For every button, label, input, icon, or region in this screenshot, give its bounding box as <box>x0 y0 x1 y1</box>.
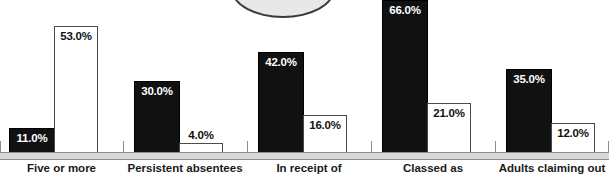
category-label-1: Persistent absentees <box>123 158 247 178</box>
axis-ticks <box>0 0 609 153</box>
category-label-0: Five or more <box>0 158 123 178</box>
grouped-bar-chart: 11.0% 53.0% 30.0% 4.0% 42.0% 16.0% 66.0%… <box>0 0 609 180</box>
x-axis-category-labels: Five or more Persistent absentees In rec… <box>0 158 609 180</box>
category-label-3: Classed as <box>371 158 495 178</box>
category-label-4: Adults claiming out <box>495 158 609 178</box>
category-label-2: In receipt of <box>247 158 371 178</box>
